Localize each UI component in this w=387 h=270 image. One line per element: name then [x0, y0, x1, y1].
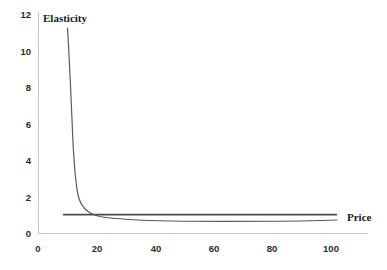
chart-container: 0 2 4 6 8 10 12 0 20 40 60 80 100 Elasti…	[0, 0, 387, 270]
x-axis-title: Price	[347, 211, 372, 223]
y-tick-label-4: 4	[26, 155, 32, 166]
y-tick-label-0: 0	[26, 228, 31, 239]
x-tick-label-60: 60	[209, 243, 220, 254]
y-tick-label-2: 2	[26, 192, 31, 203]
x-tick-label-100: 100	[323, 243, 339, 254]
series-elasticity-curve	[68, 28, 338, 221]
x-tick-label-40: 40	[151, 243, 162, 254]
y-tick-label-6: 6	[26, 119, 31, 130]
y-tick-label-12: 12	[20, 9, 31, 20]
y-tick-label-8: 8	[26, 82, 31, 93]
x-tick-label-80: 80	[267, 243, 278, 254]
x-tick-label-0: 0	[35, 243, 40, 254]
elasticity-chart: 0 2 4 6 8 10 12 0 20 40 60 80 100 Elasti…	[0, 0, 387, 270]
x-tick-label-20: 20	[92, 243, 103, 254]
y-tick-label-10: 10	[20, 46, 31, 57]
y-axis-title: Elasticity	[43, 12, 87, 24]
